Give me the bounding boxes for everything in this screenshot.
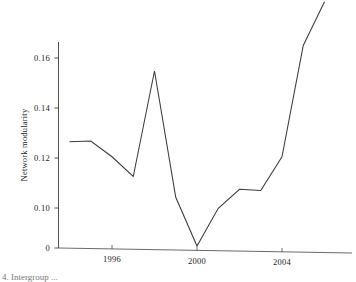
y-tick-label-0.10: 0.10 [10,203,50,213]
x-tick-label-2004: 2004 [262,257,302,267]
data-series-line [70,2,325,246]
chart-plot-area [0,0,356,282]
y-axis-title: Network modularity [19,90,29,200]
x-tick-label-1996: 1996 [92,254,132,264]
y-tick-label-0.16: 0.16 [10,53,50,63]
x-axis-line [59,248,353,253]
y-tick-label-0.14: 0.14 [10,103,50,113]
y-tick-label-0: 0 [10,243,50,253]
x-tick-label-2000: 2000 [177,256,217,266]
figure-caption: 4. Intergroup ... [2,272,58,282]
y-axis-ticks [55,58,59,248]
y-tick-label-0.12: 0.12 [10,153,50,163]
chart-figure: 0.16 0.14 0.12 0.10 0 1996 2000 2004 Net… [0,0,356,282]
